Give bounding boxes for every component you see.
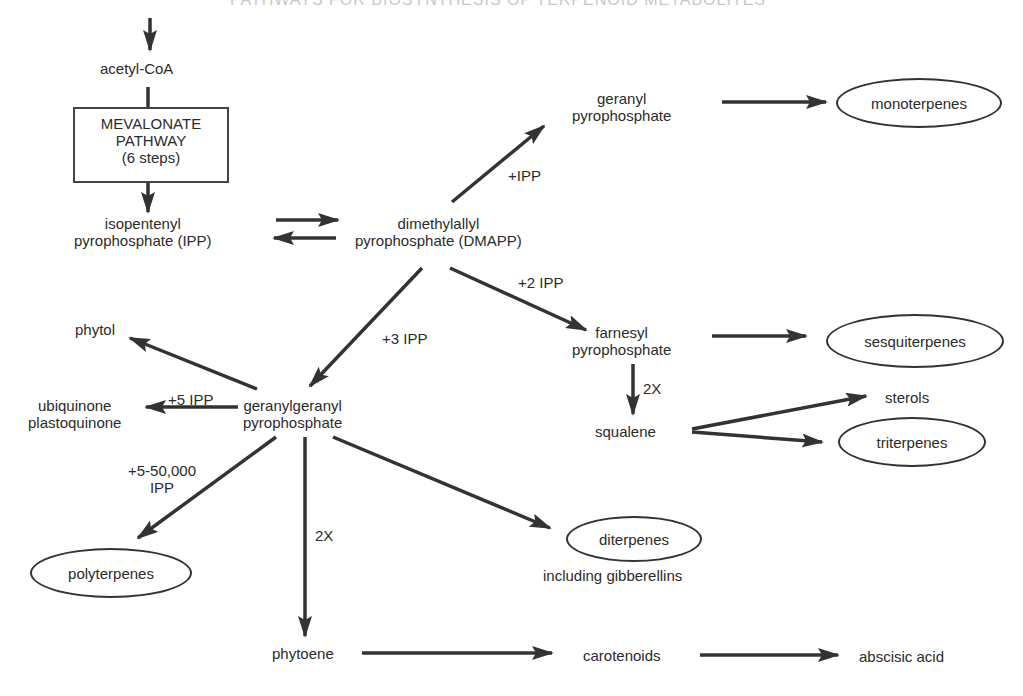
node-diterpenes: diterpenes — [566, 516, 702, 562]
mevalonate-line3: (6 steps) — [75, 149, 227, 166]
node-squalene: squalene — [595, 423, 656, 440]
polyterpenes-label-line1: +5-50,000 — [128, 462, 196, 479]
edge-label-2x-phytoene: 2X — [315, 527, 333, 544]
fpp-line2: pyrophosphate — [572, 341, 671, 358]
node-phytol: phytol — [75, 321, 115, 338]
node-ipp: isopentenyl pyrophosphate (IPP) — [74, 215, 212, 249]
arrow-dmapp-to-gpp — [452, 126, 544, 202]
edge-label-plus-3-ipp: +3 IPP — [382, 330, 427, 347]
node-dmapp: dimethylallyl pyrophosphate (DMAPP) — [355, 215, 522, 249]
arrow-squalene-to-sterols — [692, 396, 866, 429]
edge-label-plus-5-ipp: +5 IPP — [168, 391, 213, 408]
node-ggpp: geranylgeranyl pyrophosphate — [243, 397, 342, 431]
ggpp-line2: pyrophosphate — [243, 414, 342, 431]
node-quinones: ubiquinone plastoquinone — [28, 397, 121, 431]
ipp-line2: pyrophosphate (IPP) — [74, 232, 212, 249]
node-abscisic-acid: abscisic acid — [859, 648, 944, 665]
gpp-line2: pyrophosphate — [572, 107, 671, 124]
gpp-line1: geranyl — [572, 90, 671, 107]
edge-label-plus-ipp: +IPP — [508, 167, 541, 184]
ipp-line1: isopentenyl — [74, 215, 212, 232]
dmapp-line2: pyrophosphate (DMAPP) — [355, 232, 522, 249]
arrow-ggpp-to-phytol — [130, 338, 257, 389]
node-gpp: geranyl pyrophosphate — [572, 90, 671, 124]
mevalonate-pathway-box: MEVALONATE PATHWAY (6 steps) — [73, 107, 229, 183]
node-carotenoids: carotenoids — [583, 647, 661, 664]
node-sesquiterpenes: sesquiterpenes — [826, 314, 1004, 368]
arrow-dmapp-to-ggpp — [310, 268, 422, 386]
node-fpp: farnesyl pyrophosphate — [572, 324, 671, 358]
quinones-line2: plastoquinone — [28, 414, 121, 431]
node-triterpenes: triterpenes — [838, 417, 986, 467]
quinones-line1: ubiquinone — [28, 397, 121, 414]
polyterpenes-label-line2: IPP — [128, 479, 196, 496]
node-sterols: sterols — [885, 389, 929, 406]
node-phytoene: phytoene — [272, 645, 334, 662]
edge-label-plus-2-ipp: +2 IPP — [518, 274, 563, 291]
edge-label-polyterpenes: +5-50,000 IPP — [128, 462, 196, 496]
edge-label-2x-squalene: 2X — [643, 380, 661, 397]
diterpenes-note: including gibberellins — [543, 567, 682, 584]
node-monoterpenes: monoterpenes — [836, 78, 1002, 128]
ggpp-line1: geranylgeranyl — [243, 397, 342, 414]
fpp-line1: farnesyl — [572, 324, 671, 341]
dmapp-line1: dimethylallyl — [355, 215, 522, 232]
diagram-title: PATHWAYS FOR BIOSYNTHESIS OF TERPENOID M… — [230, 0, 766, 9]
arrow-ggpp-to-diterpenes — [333, 437, 550, 528]
node-acetyl-coa: acetyl-CoA — [100, 60, 173, 77]
mevalonate-line1: MEVALONATE — [75, 115, 227, 132]
arrow-squalene-to-triterpenes — [692, 432, 822, 442]
node-polyterpenes: polyterpenes — [30, 548, 192, 598]
mevalonate-line2: PATHWAY — [75, 132, 227, 149]
